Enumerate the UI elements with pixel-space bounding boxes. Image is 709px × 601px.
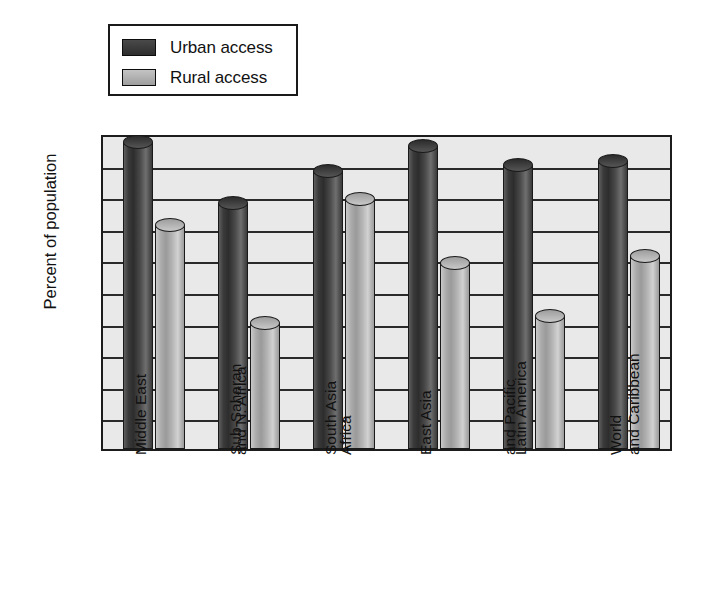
plot-area: 1009080706050403020100 [101, 135, 672, 451]
bar-rural [155, 218, 185, 449]
category-label-line: South Asia [323, 381, 339, 455]
bar-top-ellipse [155, 218, 185, 232]
category-label: World [608, 455, 667, 471]
bar-top-ellipse [313, 164, 343, 178]
bar-top-ellipse [218, 196, 248, 210]
bar-top-ellipse [408, 139, 438, 153]
legend-entry-urban: Urban access [122, 32, 296, 62]
category-label-line: Latin America [513, 361, 529, 455]
bar-rural [440, 256, 470, 449]
bar-body [598, 161, 628, 449]
bar-body [250, 323, 280, 449]
bar-top-ellipse [440, 256, 470, 270]
legend-label-urban: Urban access [170, 39, 273, 56]
bar-rural [345, 192, 375, 449]
category-label: South Asia [323, 455, 416, 471]
x-axis-category-labels: Middle Eastand N. AfricaSub-SaharanAfric… [101, 451, 672, 601]
legend-label-rural: Rural access [170, 69, 267, 86]
category-label-line: World [608, 415, 624, 455]
legend-entry-rural: Rural access [122, 62, 296, 92]
category-label-line: and Caribbean [626, 353, 642, 455]
category-label-line: Africa [338, 415, 354, 455]
bar-top-ellipse [503, 158, 533, 172]
rural-swatch-icon [122, 69, 156, 86]
bar-rural [250, 316, 280, 449]
bar-top-ellipse [250, 316, 280, 330]
bar-body [440, 263, 470, 449]
y-axis-title: Percent of population [41, 112, 60, 352]
category-label-line: Sub-Saharan [228, 364, 244, 455]
bar-body [535, 316, 565, 449]
category-label-line: Middle East [133, 374, 149, 455]
bar-rural [535, 309, 565, 449]
category-label-line: East Asia [418, 390, 434, 455]
urban-swatch-icon [122, 39, 156, 56]
bar-series-container [103, 137, 670, 449]
bar-body [155, 225, 185, 449]
bar-urban [598, 154, 628, 449]
chart-legend: Urban access Rural access [108, 24, 298, 96]
bar-body [345, 199, 375, 449]
